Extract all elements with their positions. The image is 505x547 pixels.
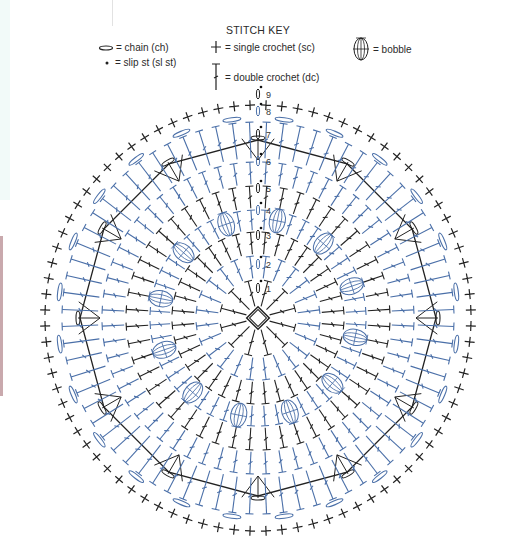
round-5-dc (357, 256, 379, 269)
round-5-dc (126, 323, 148, 331)
round-9-sc (127, 485, 135, 493)
round-2-dc (273, 355, 285, 377)
round-8-dc (319, 466, 336, 501)
round-5-dc (341, 391, 360, 409)
bobble (278, 398, 301, 426)
round-9-sc (245, 526, 255, 536)
round-2-dc (217, 350, 234, 370)
round-6-dc (377, 379, 398, 393)
round-9-sc (393, 153, 401, 161)
round-9-sc (65, 214, 74, 223)
round-2-dc (206, 342, 226, 359)
round-start-chain (256, 129, 259, 139)
round-9-sc (324, 514, 333, 523)
slip-stitch-dot (260, 153, 263, 156)
round-2-dc (217, 266, 234, 286)
round-8-chain (57, 335, 63, 353)
round-6-dc (390, 290, 412, 298)
round-8-dc (306, 471, 321, 507)
round-5-dc (128, 339, 150, 347)
round-7-cluster-dc (154, 171, 179, 181)
round-3-dc (303, 363, 321, 381)
round-6-dc (331, 185, 346, 206)
round-8-chain (57, 283, 63, 301)
round-number-label: 4 (266, 206, 271, 216)
round-8-chain (437, 385, 448, 403)
round-8-chain (453, 335, 459, 353)
round-6-dc (392, 306, 414, 314)
bobble (342, 327, 369, 347)
round-6-dc (306, 443, 318, 465)
round-8-chain (325, 497, 343, 508)
round-8-dc (179, 135, 196, 170)
round-6-dc (230, 163, 238, 185)
round-1-dc (261, 330, 272, 356)
round-8-chain (68, 232, 79, 250)
round-8-dc (417, 339, 453, 348)
round-2-dc (290, 342, 310, 359)
round-3-dc (172, 322, 194, 330)
round-8-dc (393, 209, 426, 232)
round-6-dc (198, 443, 210, 465)
round-start-chain (256, 183, 259, 193)
round-9-sc (73, 427, 81, 435)
crochet-chart: 123456789 (0, 0, 505, 547)
round-number-label: 1 (266, 284, 271, 294)
round-9-sc (442, 214, 451, 223)
round-6-dc (184, 177, 198, 198)
round-6-dc (111, 366, 133, 378)
slip-stitch-dot (260, 202, 263, 205)
round-3-dc (174, 335, 196, 345)
round-3-dc (247, 232, 255, 254)
round-4-dc (341, 346, 361, 356)
round-5-dc (279, 188, 287, 210)
round-8-dc (111, 183, 140, 210)
slip-stitch-dot (260, 227, 263, 230)
round-6-dc (198, 171, 210, 193)
round-9-sc (367, 133, 375, 141)
round-1-dc (220, 304, 246, 315)
round-4-dc (207, 397, 219, 417)
round-number-label: 7 (266, 130, 271, 140)
round-3-dc (275, 380, 285, 402)
round-9-sc (127, 143, 135, 151)
round-9-sc (416, 175, 424, 183)
round-9-sc (324, 112, 333, 121)
round-9-sc (44, 353, 54, 363)
round-6-dc (387, 274, 409, 284)
round-8-dc (406, 239, 441, 256)
round-9-sc (47, 368, 57, 378)
round-4-dc (346, 321, 366, 329)
round-3-dc (310, 265, 330, 281)
round-6-dc (170, 185, 185, 206)
round-3-dc (178, 278, 200, 291)
round-2-dc (295, 291, 317, 303)
round-4-dc (337, 357, 357, 369)
round-9-sc (449, 228, 458, 237)
round-6-dc (145, 205, 163, 223)
slip-stitch-dot (260, 126, 263, 129)
round-4-dc (166, 367, 185, 381)
round-9-sc (466, 305, 476, 315)
round-6-dc (106, 274, 128, 284)
round-9-sc (293, 104, 303, 114)
round-number-label: 8 (266, 107, 271, 117)
round-1-dc (228, 326, 249, 347)
round-9-sc (183, 514, 192, 523)
round-8-chain (223, 513, 241, 519)
round-9-sc (229, 101, 239, 111)
round-4-dc (331, 255, 350, 269)
bobble (148, 288, 175, 308)
round-6-dc (342, 194, 359, 214)
round-8-dc (411, 255, 447, 270)
round-8-dc (212, 474, 224, 510)
round-6-dc (102, 322, 124, 330)
round-5-dc (263, 428, 271, 450)
round-6-dc (111, 258, 133, 270)
slip-stitch-dot (260, 256, 263, 259)
round-8-dc (91, 404, 124, 427)
round-8-dc (406, 379, 441, 396)
round-7-cluster-dc (337, 455, 362, 465)
round-start-chain (256, 205, 259, 215)
round-8-dc (319, 135, 336, 170)
